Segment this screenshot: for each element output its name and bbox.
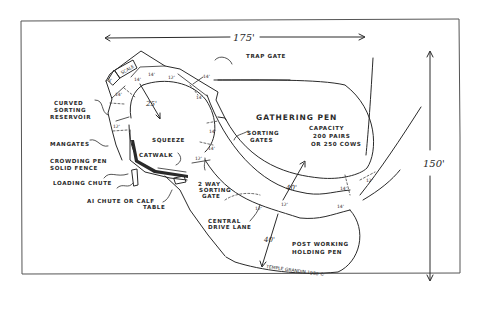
svg-text:12': 12' (168, 75, 175, 80)
svg-text:14': 14' (134, 77, 141, 82)
height-label: 150' (423, 158, 445, 169)
svg-text:12': 12' (113, 124, 120, 129)
capacity-label-line1: CAPACITY (309, 125, 345, 131)
loading-chute-label: LOADING CHUTE (53, 180, 112, 186)
capacity-label-line3: OR 250 COWS (311, 141, 361, 147)
trap-gate-label: TRAP GATE (246, 53, 286, 59)
holding-radius-label: 40' (263, 236, 275, 244)
crowding-pen-label-line2: SOLID FENCE (50, 165, 98, 171)
width-dimension: 175' (105, 32, 365, 43)
svg-text:14': 14' (196, 95, 203, 100)
reservoir-label-line3: RESERVOIR (50, 114, 91, 120)
two-way-gate-label-line3: GATE (202, 193, 221, 199)
width-label: 175' (233, 32, 255, 43)
mangates-label: MANGATES (50, 141, 90, 147)
svg-text:14': 14' (115, 92, 122, 97)
ai-chute-label-line2: TABLE (143, 204, 165, 210)
sorting-gates-label-line2: GATES (250, 137, 273, 143)
outer-alley (106, 51, 226, 120)
svg-text:12': 12' (281, 202, 288, 207)
height-dimension: 150' (423, 51, 445, 281)
holding-pen-label-line1: POST WORKING (292, 241, 349, 247)
reservoir-label-line1: CURVED (54, 100, 83, 106)
catwalk-label: CATWALK (139, 152, 173, 158)
gathering-pen-label: GATHERING PEN (256, 113, 337, 122)
svg-text:14': 14' (337, 204, 344, 209)
reservoir-label-line2: SORTING (54, 107, 86, 113)
crowding-pen-label-line1: CROWDING PEN (50, 158, 107, 164)
gathering-radius-label: 40' (285, 184, 297, 192)
facility-diagram: 175' 150' SCALE 3' 25' 14' 14' 12' 14' 1… (0, 0, 478, 311)
svg-text:12': 12' (366, 178, 373, 183)
svg-text:14': 14' (209, 129, 216, 134)
svg-text:12': 12' (195, 156, 202, 161)
svg-text:14': 14' (340, 186, 347, 191)
sorting-gates-label-line1: SORTING (247, 130, 279, 136)
reservoir-radius-label: 25' (145, 100, 157, 108)
svg-text:14': 14' (203, 74, 210, 79)
gathering-pen-boundary (214, 80, 374, 179)
svg-text:14': 14' (208, 146, 215, 151)
holding-pen-label-line2: HOLDING PEN (292, 249, 342, 255)
fence-line-right (366, 58, 373, 155)
catwalk (131, 140, 188, 178)
svg-text:3': 3' (108, 78, 112, 83)
scale: SCALE 3' (108, 60, 137, 85)
svg-text:14': 14' (148, 72, 155, 77)
capacity-label-line2: 200 PAIRS (313, 133, 350, 139)
squeeze-label: SQUEEZE (152, 137, 185, 143)
central-drive-lane-label-line2: DRIVE LANE (208, 224, 252, 230)
